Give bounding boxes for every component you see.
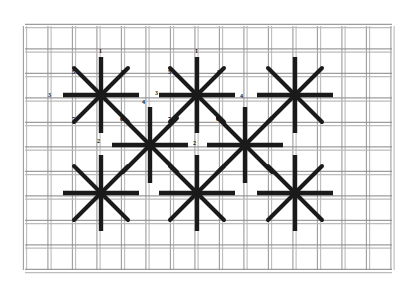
sequence-number-label: 2 xyxy=(193,140,196,146)
canvas-thread-horizontal xyxy=(25,196,392,199)
canvas-thread-horizontal xyxy=(25,98,392,101)
sequence-number-label: 3 xyxy=(155,90,158,96)
canvas-thread-horizontal xyxy=(25,269,392,272)
canvas-mesh-layer xyxy=(23,24,394,272)
canvas-thread-horizontal xyxy=(25,24,392,27)
sequence-number-label: 2 xyxy=(97,138,100,144)
canvas-thread-vertical xyxy=(121,26,124,270)
stitch-diagram xyxy=(0,0,414,292)
canvas-thread-horizontal xyxy=(25,220,392,223)
sequence-number-label: 7 xyxy=(168,116,171,122)
sequence-number-label: 1 xyxy=(99,48,102,54)
canvas-thread-horizontal xyxy=(25,245,392,248)
canvas-thread-horizontal xyxy=(25,122,392,125)
sequence-number-label: 4 xyxy=(240,93,243,99)
sequence-number-label: 4 xyxy=(142,99,145,105)
canvas-thread-vertical xyxy=(268,26,271,270)
sequence-number-label: 3 xyxy=(48,92,51,98)
canvas-thread-vertical xyxy=(366,26,369,270)
sequence-number-label: 7 xyxy=(72,116,75,122)
canvas-thread-horizontal xyxy=(25,49,392,52)
canvas-thread-vertical xyxy=(342,26,345,270)
sequence-number-label: 6 xyxy=(216,116,219,122)
star-stitch-bottom-right xyxy=(257,155,333,231)
canvas-thread-vertical xyxy=(391,26,394,270)
star-stitch-bottom-left xyxy=(63,155,139,231)
sequence-number-label: 8 xyxy=(121,69,124,75)
canvas-thread-vertical xyxy=(219,26,222,270)
sequence-number-label: 1 xyxy=(195,48,198,54)
canvas-thread-vertical xyxy=(317,26,320,270)
sequence-number-label: 8 xyxy=(217,69,220,75)
star-stitch-bottom-center xyxy=(159,155,235,231)
sequence-number-label: 6 xyxy=(120,116,123,122)
canvas-thread-vertical xyxy=(23,26,26,270)
canvas-thread-vertical xyxy=(48,26,51,270)
canvas-thread-vertical xyxy=(72,26,75,270)
sequence-number-label: 5 xyxy=(168,69,171,75)
canvas-thread-vertical xyxy=(170,26,173,270)
canvas-thread-horizontal xyxy=(25,147,392,150)
sequence-number-label: 5 xyxy=(72,69,75,75)
diagram-stage: 1583476215834762 xyxy=(0,0,414,292)
